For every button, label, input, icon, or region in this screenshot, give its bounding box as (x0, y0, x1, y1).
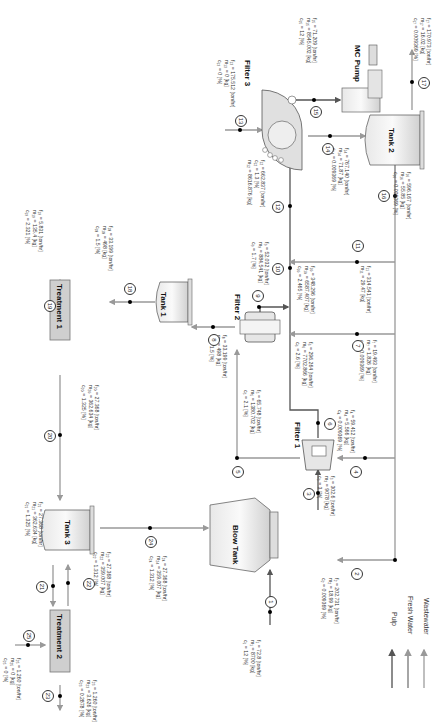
mc-pump (342, 45, 382, 112)
stream-5-data: f₅ = 65.748 [ton/hr]m₅ = 1380.702 [kg]c₅… (243, 390, 262, 434)
stream-number: 4 (350, 466, 362, 478)
filter-3 (262, 90, 302, 170)
stream-19-data: f₁₉ = 5.831 [ton/hr]m₁₉ = 135.4 [kg]c₁₉ … (25, 210, 44, 252)
stream-number: 25 (23, 630, 35, 642)
filter-1 (302, 440, 334, 470)
stream-number: 17 (418, 77, 430, 89)
stream-number: 10 (272, 263, 284, 275)
stream-15-data: f₁₅ = 71.209 [ton/hr]m₁₅ = 8545.002 [kg]… (299, 18, 318, 64)
stream-9-line (260, 307, 288, 312)
stream-number: 20 (44, 430, 56, 442)
blow-tank-label: Blow Tank (231, 525, 240, 564)
stream-4-data: f₄ = 59.412 [ton/hr]m₄ = 5.566 [kg]c₄ = … (337, 410, 356, 453)
stream-17-data: f₁₇ = 170.973 [ton/hr]m₁₇ = 16.02 [kg]c₁… (413, 18, 432, 65)
stream-number: 21 (36, 581, 48, 593)
stream-number: 13 (235, 115, 247, 127)
stream-24-data: f₂₄ = 27.368 [ton/hr]m₂₄ = 359.007 [kg]c… (149, 556, 168, 601)
treatment-2-label: Treatment 2 (55, 614, 64, 659)
legend-pulp: Pulp (391, 612, 398, 626)
stream-number: 14 (322, 143, 334, 155)
tank-2-label: Tank 2 (387, 128, 396, 153)
stream-number: 6 (324, 418, 336, 430)
mc-pump-label: MC Pump (353, 45, 362, 82)
legend-fresh-water: Fresh Water (407, 596, 414, 634)
stream-number: 24 (145, 536, 157, 548)
stream-6-data: f₆ = 296.264 [ton/hr]m₆ = 7702.866 [kg]c… (295, 342, 314, 388)
stream-number: 22 (83, 578, 95, 590)
filter-1-label: Filter 1 (293, 422, 302, 448)
stream-number: 5 (232, 466, 244, 478)
stream-number: 7 (352, 340, 364, 352)
stream-23-data: f₂₃ = 1.260 [ton/hr]m₂₃ = 3.626 [kg]c₂₃ … (79, 680, 98, 722)
stream-2-data: f₂ = 202.731 [ton/hr]m₂ = 18.99 [kg]c₂ =… (321, 578, 340, 624)
stream-number: 23 (42, 690, 54, 702)
stream-13-data: f₁₃ = 175.512 [ton/hr]m₁₃ = 0 [kg]c₁₃ = … (217, 60, 236, 108)
legend-wastewater: Wastewater (423, 598, 430, 635)
stream-number: 3 (303, 488, 315, 500)
filter-2-label: Filter 2 (233, 294, 242, 320)
stream-number: 15 (310, 106, 322, 118)
stream-21-data: f₂₁ = 27.368 [ton/hr]m₂₁ = 362.634 [kg]c… (25, 502, 44, 547)
stream-11-data: f₁₁ = 314.541 [ton/hr]m₁₁ = 29.47 [kg] (359, 266, 372, 313)
stream-18-data: f₁₈ = 33.199 [ton/hr]m₁₈ = 498 [kg]c₁₈ =… (95, 226, 114, 271)
stream-1-data: f₁ = 72.8 [ton/hr]m₁ = 8700 [kg]c₁ = 12 … (243, 640, 262, 677)
stream-9-data: f₉ = 52.032 [ton/hr]m₉ = 884.541 [kg]c₉ … (251, 242, 270, 285)
stream-number: 9 (252, 290, 264, 302)
stream-number: 19 (44, 300, 56, 312)
stream-16-data: f₁₆ = 596.167 [ton/hr]m₁₆ = 55.85 [kg]c₁… (393, 172, 412, 220)
stream-20-data: f₂₀ = 27.368 [ton/hr]m₂₀ = 362.634 [kg]c… (81, 385, 100, 430)
stream-3-data: f₃ = 302.6 [ton/hr]m₃ = 9078 [kg]c₃ = 3 … (317, 476, 336, 516)
stream-10-data: f₁₀ = 348.296 [ton/hr]m₁₀ = 6587.407 [kg… (297, 266, 316, 314)
tank-1-label: Tank 1 (159, 292, 168, 317)
filter-3-label: Filter 3 (243, 60, 252, 86)
stream-number: 18 (124, 283, 136, 295)
stream-14-data: f₁₄ = 767.140 [ton/hr]m₁₄ = 71.87 [kg]c₁… (331, 148, 350, 196)
stream-number: 1 (265, 596, 277, 608)
stream-number: 2 (351, 568, 363, 580)
treatment-1-label: Treatment 1 (55, 284, 64, 329)
stream-number: 11 (352, 240, 364, 252)
stream-number: 8 (208, 334, 220, 346)
blow-tank (210, 498, 278, 572)
stream-12-data: f₁₂ = 662.837 [ton/hr]c₁₂ = 1.3 [%]m₁₂ =… (247, 160, 266, 207)
stream-number: 16 (378, 190, 390, 202)
tank-3-label: Tank 3 (63, 520, 72, 545)
stream-22-data: f₂₂ = 27.368 [ton/hr]m₂₂ = 359.007 [kg]c… (93, 552, 112, 597)
stream-25-data: f₂₅ = 1.260 [ton/hr]m₂₅ = 0 [kg]c₂₅ = 0 … (3, 658, 22, 700)
filter-2 (240, 312, 280, 342)
stream-number: 12 (272, 201, 284, 213)
